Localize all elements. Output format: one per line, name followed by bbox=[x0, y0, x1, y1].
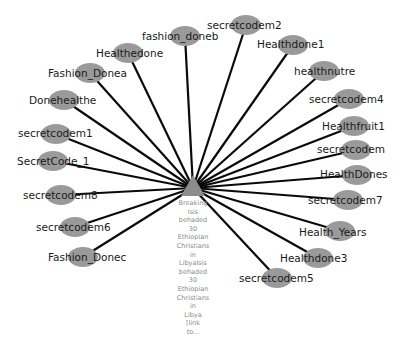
node-label: Healthdone1 bbox=[257, 38, 324, 50]
graph-edge bbox=[193, 188, 318, 258]
hub-node[interactable]: BreakingIsisbehaded30EthiopianChristians… bbox=[177, 175, 210, 336]
hub-label: BreakingIsisbehaded30EthiopianChristians… bbox=[177, 199, 210, 336]
graph-node[interactable]: SecretCode_1 bbox=[17, 151, 89, 171]
node-label: Healthdone3 bbox=[280, 252, 347, 264]
graph-node[interactable]: healthnutre bbox=[294, 61, 355, 81]
node-label: Donehealthe bbox=[29, 94, 96, 106]
node-label: secretcodem4 bbox=[309, 93, 384, 105]
graph-node[interactable]: Healthfruit1 bbox=[322, 116, 385, 136]
node-label: SecretCode_1 bbox=[17, 155, 89, 168]
graph-edge bbox=[185, 36, 193, 188]
graph-node[interactable]: secretcodem7 bbox=[308, 190, 383, 210]
graph-node[interactable]: Fashion_Donec bbox=[48, 247, 127, 267]
node-label: secretcodem5 bbox=[239, 272, 314, 284]
graph-node[interactable]: secretcodem1 bbox=[18, 124, 93, 144]
node-label: Healthfruit1 bbox=[322, 120, 385, 132]
node-label: secretcodem8 bbox=[23, 189, 98, 201]
graph-node[interactable]: secretcodem5 bbox=[239, 268, 314, 288]
graph-node[interactable]: Healthdone3 bbox=[280, 248, 347, 268]
node-label: secretcodem bbox=[317, 143, 385, 155]
graph-edge bbox=[128, 53, 193, 188]
graph-node[interactable]: secretcodem8 bbox=[23, 185, 98, 205]
graph-node[interactable]: Healthdone1 bbox=[257, 35, 324, 55]
graph-node[interactable]: Health_Years bbox=[299, 221, 366, 241]
node-label: secretcodem1 bbox=[18, 127, 93, 139]
node-label: fashion_doneb bbox=[142, 30, 219, 43]
node-label: secretcodem6 bbox=[36, 221, 111, 233]
graph-edge bbox=[193, 45, 293, 188]
network-graph: fashion_donebsecretcodem2Healthdone1heal… bbox=[0, 0, 404, 353]
node-label: secretcodem2 bbox=[207, 19, 282, 31]
graph-node[interactable]: Fashion_Donea bbox=[48, 63, 127, 83]
node-label: HealthDones bbox=[320, 168, 388, 180]
graph-node[interactable]: Donehealthe bbox=[29, 90, 96, 110]
node-label: Fashion_Donec bbox=[48, 251, 127, 264]
node-label: secretcodem7 bbox=[308, 194, 383, 206]
graph-node[interactable]: Healthedone bbox=[96, 43, 163, 63]
node-label: Health_Years bbox=[299, 226, 366, 239]
node-label: Healthedone bbox=[96, 47, 163, 59]
graph-node[interactable]: secretcodem4 bbox=[309, 89, 384, 109]
graph-node[interactable]: HealthDones bbox=[320, 165, 388, 185]
node-label: Fashion_Donea bbox=[48, 67, 127, 80]
node-label: healthnutre bbox=[294, 65, 355, 77]
